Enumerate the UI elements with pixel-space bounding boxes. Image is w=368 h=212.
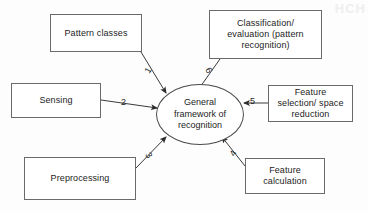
node-classification-evaluation[interactable]: Classification/ evaluation (pattern reco… — [209, 10, 322, 59]
diagram-canvas: HCH Pattern classes Classification/ eval… — [0, 0, 368, 212]
node-label-pattern-classes: Pattern classes — [61, 28, 130, 39]
edge-label-5: 5 — [250, 97, 255, 106]
node-pattern-classes[interactable]: Pattern classes — [50, 14, 142, 52]
edge-line-1 — [141, 52, 166, 93]
edge-label-2-text: 2 — [121, 97, 126, 107]
node-label-sensing: Sensing — [36, 95, 75, 106]
edge-line-2 — [101, 100, 157, 108]
node-label-classification-evaluation: Classification/ evaluation (pattern reco… — [224, 18, 306, 51]
node-label-center: General framework of recognition — [174, 97, 226, 132]
node-label-feature-selection: Feature selection/ space reduction — [274, 87, 346, 120]
node-label-preprocessing: Preprocessing — [48, 173, 113, 184]
node-label-feature-calculation: Feature calculation — [260, 165, 310, 187]
edge-label-5-text: 5 — [250, 96, 255, 106]
node-center-general-framework[interactable]: General framework of recognition — [156, 84, 244, 145]
node-feature-calculation[interactable]: Feature calculation — [245, 158, 325, 194]
node-preprocessing[interactable]: Preprocessing — [24, 157, 136, 200]
edge-label-2: 2 — [121, 98, 126, 107]
node-feature-selection[interactable]: Feature selection/ space reduction — [268, 85, 353, 122]
node-sensing[interactable]: Sensing — [11, 83, 101, 118]
